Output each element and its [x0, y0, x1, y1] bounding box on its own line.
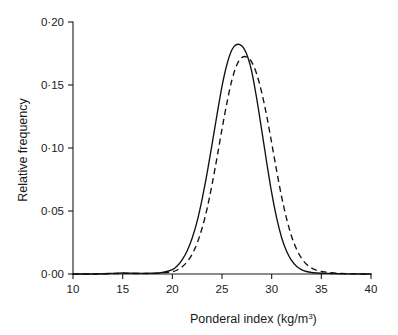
- x-tick-label: 20: [166, 283, 179, 295]
- y-tick-label: 0·10: [41, 142, 64, 154]
- tick-label-group: 0·000·050·100·150·20 10152025303540: [41, 16, 377, 295]
- x-tick-label: 35: [315, 283, 328, 295]
- x-axis-title-main: Ponderal index (kg/m: [190, 312, 308, 326]
- x-axis-title: Ponderal index (kg/m3): [190, 312, 317, 326]
- y-axis-ticks: [68, 22, 73, 274]
- x-tick-label: 30: [265, 283, 278, 295]
- x-axis-ticks: [73, 274, 371, 279]
- y-tick-label: 0·20: [41, 16, 64, 28]
- x-axis-tick-labels: 10152025303540: [67, 283, 378, 295]
- y-tick-label: 0·00: [41, 268, 64, 280]
- x-tick-label: 10: [67, 283, 80, 295]
- distribution-chart: 0·000·050·100·150·20 10152025303540 Rela…: [0, 0, 398, 335]
- chart-figure: 0·000·050·100·150·20 10152025303540 Rela…: [0, 0, 398, 335]
- solid-distribution-curve: [73, 44, 371, 274]
- axes-group: [68, 22, 371, 279]
- curves-group: [73, 44, 371, 274]
- x-tick-label: 15: [116, 283, 129, 295]
- y-tick-label: 0·05: [41, 205, 64, 217]
- y-axis-title: Relative frequency: [16, 97, 30, 201]
- x-axis-title-suffix: ): [313, 312, 317, 326]
- y-tick-label: 0·15: [41, 79, 64, 91]
- x-tick-label: 40: [365, 283, 378, 295]
- x-tick-label: 25: [216, 283, 229, 295]
- y-axis-tick-labels: 0·000·050·100·150·20: [41, 16, 64, 280]
